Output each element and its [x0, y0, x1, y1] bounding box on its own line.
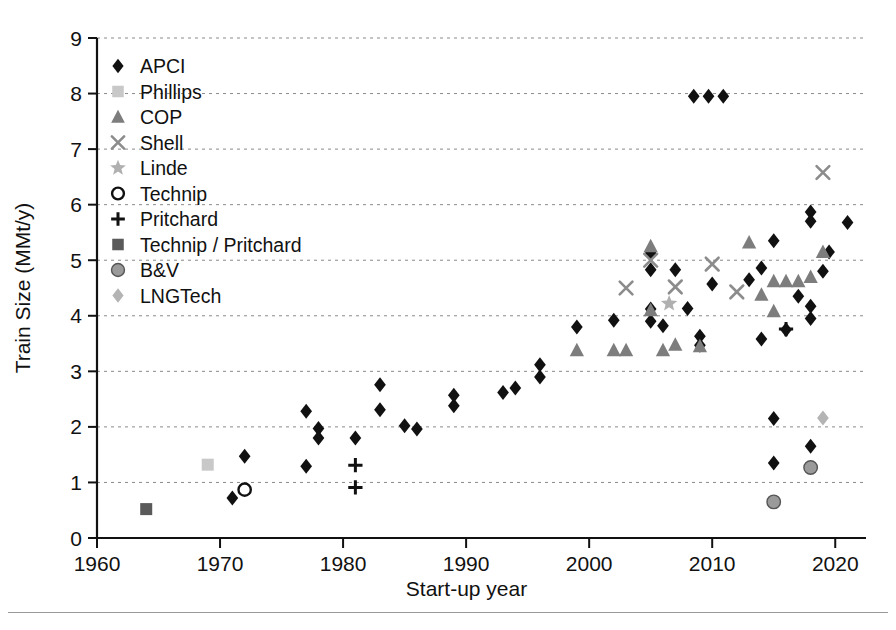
data-point	[768, 411, 780, 426]
data-point	[804, 269, 818, 283]
legend-marker-icon	[112, 288, 123, 302]
data-point	[805, 439, 817, 454]
data-point	[399, 418, 411, 433]
data-point	[791, 274, 805, 288]
data-point	[411, 422, 423, 437]
data-point	[706, 258, 719, 271]
data-point	[688, 89, 700, 104]
footer-divider	[8, 612, 888, 613]
data-point	[682, 301, 694, 316]
series-lngtech	[817, 411, 829, 426]
legend-marker-icon	[112, 59, 123, 73]
data-point	[348, 458, 362, 472]
y-tick-label: 6	[70, 193, 82, 216]
legend-item-pritchard[interactable]: Pritchard	[111, 208, 218, 230]
series-technip	[238, 484, 250, 496]
data-point	[497, 385, 509, 400]
data-point	[374, 377, 386, 392]
series-technip-pritchard	[140, 503, 152, 515]
y-tick-label: 3	[70, 360, 82, 383]
data-point	[239, 449, 251, 464]
legend-label: APCI	[140, 55, 186, 77]
data-point	[703, 89, 715, 104]
data-point	[534, 369, 546, 384]
data-point	[706, 277, 718, 292]
legend-marker-icon	[112, 239, 124, 251]
y-tick-label: 0	[70, 527, 82, 550]
legend-item-technip[interactable]: Technip	[112, 183, 207, 205]
y-tick-label: 8	[70, 82, 82, 105]
y-tick-label: 2	[70, 415, 82, 438]
legend-label: Phillips	[140, 81, 202, 103]
y-tick-label: 5	[70, 249, 82, 272]
data-point	[140, 503, 152, 515]
data-point	[374, 402, 386, 417]
x-axis-label: Start-up year	[406, 577, 527, 600]
data-point	[661, 295, 677, 311]
data-point	[619, 343, 633, 357]
series-pritchard	[348, 322, 793, 495]
legend-item-lngtech[interactable]: LNGTech	[112, 285, 221, 307]
data-point	[300, 459, 312, 474]
data-point	[779, 274, 793, 288]
data-point	[768, 233, 780, 248]
legend-label: Linde	[140, 157, 188, 179]
legend-marker-icon	[111, 212, 125, 226]
legend-marker-icon	[111, 110, 125, 123]
data-points-group	[140, 89, 853, 515]
legend-label: LNGTech	[140, 285, 221, 307]
x-tick-label: 1970	[197, 552, 244, 575]
legend-item-phillips[interactable]: Phillips	[112, 81, 202, 103]
legend-label: B&V	[140, 259, 179, 281]
legend-label: Shell	[140, 132, 183, 154]
legend-marker-icon	[112, 188, 124, 200]
data-point	[509, 381, 521, 396]
data-point	[202, 459, 214, 471]
data-point	[768, 456, 780, 471]
data-point	[743, 272, 755, 287]
series-linde	[661, 295, 677, 311]
y-axis-label: Train Size (MMt/y)	[11, 203, 34, 374]
data-point	[669, 262, 681, 277]
data-point	[608, 313, 620, 328]
legend-label: Technip / Pritchard	[140, 234, 302, 256]
data-point	[669, 281, 682, 294]
data-point	[570, 343, 584, 357]
x-tick-label: 1980	[320, 552, 367, 575]
y-tick-label: 7	[70, 138, 82, 161]
data-point	[779, 322, 793, 336]
x-tick-label: 1960	[74, 552, 121, 575]
legend-item-technip-pritchard[interactable]: Technip / Pritchard	[112, 234, 301, 256]
y-tick-label: 4	[70, 304, 82, 327]
data-point	[756, 261, 768, 276]
data-point	[754, 287, 768, 301]
data-point	[620, 282, 633, 295]
legend-marker-icon	[112, 264, 125, 277]
data-point	[238, 484, 250, 496]
scatter-plot: 01234567891960197019801990200020102020St…	[0, 0, 896, 630]
data-point	[448, 398, 460, 413]
data-point	[767, 274, 781, 288]
legend-item-shell[interactable]: Shell	[112, 132, 183, 154]
data-point	[607, 343, 621, 357]
data-point	[817, 411, 829, 426]
legend-item-cop[interactable]: COP	[111, 106, 182, 128]
data-point	[767, 495, 781, 509]
data-point	[571, 319, 583, 334]
legend-item-b-v[interactable]: B&V	[112, 259, 180, 281]
data-point	[804, 461, 818, 475]
legend-item-linde[interactable]: Linde	[110, 157, 188, 179]
chart-figure: 01234567891960197019801990200020102020St…	[0, 0, 896, 630]
data-point	[817, 264, 829, 279]
legend-item-apci[interactable]: APCI	[112, 55, 185, 77]
data-point	[767, 304, 781, 318]
data-point	[805, 214, 817, 229]
series-phillips	[202, 459, 214, 471]
data-point	[300, 404, 312, 419]
data-point	[805, 311, 817, 326]
data-point	[657, 318, 669, 333]
y-tick-label: 9	[70, 27, 82, 50]
legend-marker-icon	[112, 86, 124, 98]
data-point	[817, 166, 830, 179]
legend-label: Pritchard	[140, 208, 218, 230]
